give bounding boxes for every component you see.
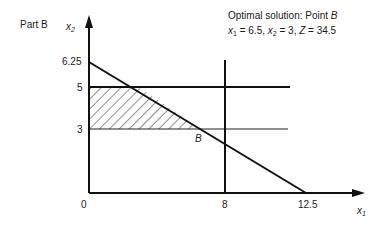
optimal-solution-title: Optimal solution: Point B: [228, 10, 338, 21]
x-tick-12-5: 12.5: [298, 199, 317, 210]
y-tick-6-25: 6.25: [62, 56, 81, 67]
y-tick-3: 3: [77, 124, 83, 135]
x-axis-arrow-icon: [352, 189, 365, 197]
y-axis-label: x2: [66, 21, 75, 35]
y-tick-5: 5: [77, 82, 83, 93]
x-tick-8: 8: [222, 199, 228, 210]
point-b-label: B: [195, 133, 202, 144]
panel-label: Part B: [20, 19, 48, 30]
y-axis-arrow-icon: [85, 15, 93, 28]
feasible-region: [89, 87, 200, 129]
optimal-solution-values: x1 = 6.5, x2 = 3, Z = 34.5: [228, 25, 336, 39]
x-axis-label: x1: [357, 205, 366, 219]
x-tick-0: 0: [81, 199, 87, 210]
